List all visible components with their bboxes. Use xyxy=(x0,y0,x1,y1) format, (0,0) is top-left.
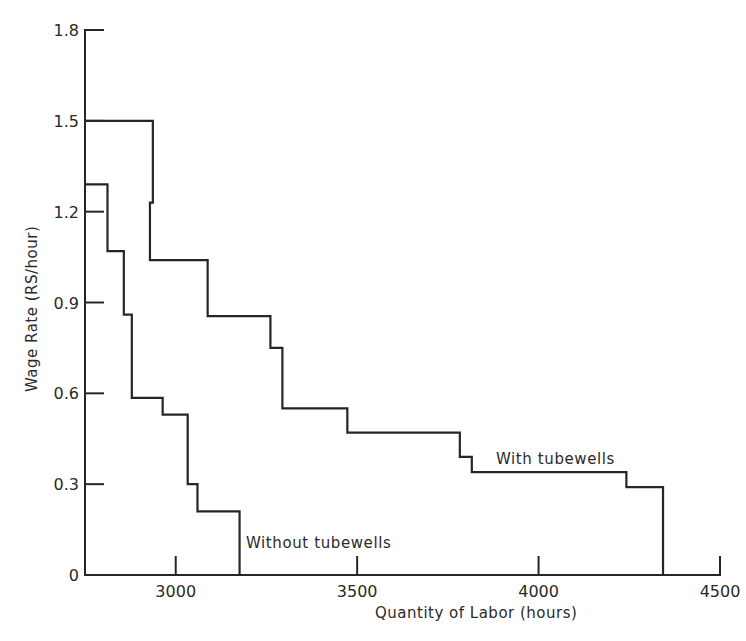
x-axis-title: Quantity of Labor (hours) xyxy=(375,604,577,622)
x-tick-label: 3000 xyxy=(155,582,196,601)
series-without-tubewells xyxy=(85,184,240,575)
y-tick-label: 0.3 xyxy=(54,475,79,494)
y-axis-title: Wage Rate (RS/hour) xyxy=(23,226,41,392)
y-axis-ticks: 00.30.60.91.21.51.8 xyxy=(54,21,104,585)
y-tick-label: 1.2 xyxy=(54,203,79,222)
y-tick-label: 0.9 xyxy=(54,294,79,313)
x-tick-label: 3500 xyxy=(337,582,378,601)
annotation-without-tubewells: Without tubewells xyxy=(246,534,391,552)
y-tick-label: 1.5 xyxy=(54,112,79,131)
series-with-tubewells xyxy=(85,121,663,575)
y-tick-label: 1.8 xyxy=(54,21,79,40)
x-tick-label: 4000 xyxy=(518,582,559,601)
y-tick-label: 0.6 xyxy=(54,384,79,403)
wage-labor-step-chart: 00.30.60.91.21.51.8 3000350040004500 Wit… xyxy=(0,0,746,641)
x-tick-label: 4500 xyxy=(700,582,741,601)
y-tick-label: 0 xyxy=(69,566,79,585)
annotation-with-tubewells: With tubewells xyxy=(496,450,615,468)
x-axis-ticks: 3000350040004500 xyxy=(155,556,740,601)
